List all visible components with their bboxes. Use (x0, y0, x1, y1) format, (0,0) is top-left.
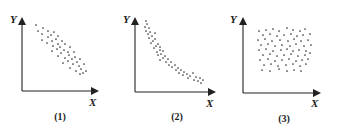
data-point (60, 52, 62, 54)
data-point (151, 35, 153, 37)
data-point (147, 33, 149, 35)
data-point (175, 69, 177, 71)
data-point (148, 27, 150, 29)
data-point (79, 73, 81, 75)
data-point (302, 34, 304, 36)
data-point (264, 38, 266, 40)
data-point (61, 40, 63, 42)
data-point (150, 42, 152, 44)
data-point (83, 63, 85, 65)
data-point (272, 28, 274, 30)
data-point (279, 39, 281, 41)
data-point (180, 69, 182, 71)
data-point (71, 58, 73, 60)
data-point (258, 30, 260, 32)
data-point (85, 70, 87, 72)
data-point (59, 46, 61, 48)
data-point (195, 76, 197, 78)
y-axis-label-1: Y (10, 14, 17, 25)
data-point (192, 72, 194, 74)
data-point (258, 49, 260, 51)
data-point (304, 28, 306, 30)
data-point (299, 65, 301, 67)
data-point (171, 66, 173, 68)
data-point (197, 80, 199, 82)
data-point (262, 54, 264, 56)
data-point (72, 63, 74, 65)
data-point (297, 55, 299, 57)
data-point (303, 45, 305, 47)
data-point (41, 39, 43, 41)
data-point (164, 55, 166, 57)
data-point (82, 72, 84, 74)
data-point (277, 65, 279, 67)
data-point (183, 71, 185, 73)
data-point (285, 64, 287, 66)
data-point (262, 34, 264, 36)
x-axis-label-2: X (206, 98, 213, 109)
caption-3: (3) (278, 114, 290, 124)
data-point (289, 45, 291, 47)
data-point (286, 48, 288, 50)
data-point (193, 79, 195, 81)
data-point (146, 23, 148, 25)
data-point (47, 30, 49, 32)
data-point (78, 65, 80, 67)
data-point (257, 39, 259, 41)
data-point (265, 48, 267, 50)
data-point (64, 43, 66, 45)
data-point (67, 51, 69, 53)
data-point (186, 73, 188, 75)
data-point (286, 70, 288, 72)
data-point (157, 43, 159, 45)
data-point (189, 75, 191, 77)
data-point (267, 43, 269, 45)
data-point (144, 26, 146, 28)
data-point (79, 58, 81, 60)
data-point (263, 64, 265, 66)
data-point (292, 29, 294, 31)
data-point (283, 54, 285, 56)
data-point (200, 82, 202, 84)
data-point (64, 57, 66, 59)
data-point (57, 55, 59, 57)
data-point (260, 44, 262, 46)
caption-2: (2) (171, 112, 183, 122)
data-point (300, 70, 302, 72)
data-point (73, 51, 75, 53)
data-point (53, 31, 55, 33)
data-point (269, 33, 271, 35)
data-point (292, 63, 294, 65)
data-point (307, 58, 309, 60)
data-point (148, 37, 150, 39)
data-point (199, 77, 201, 79)
data-point (167, 58, 169, 60)
data-point (35, 24, 37, 26)
data-point (305, 50, 307, 52)
data-point (74, 56, 76, 58)
scatter-plot-2 (135, 19, 214, 92)
data-point (286, 27, 288, 29)
data-point (162, 50, 164, 52)
data-point (288, 58, 290, 60)
data-point (159, 49, 161, 51)
data-point (269, 53, 271, 55)
scatter-plot-3 (243, 19, 319, 93)
data-point (159, 59, 161, 61)
data-point (75, 70, 77, 72)
data-point (295, 60, 297, 62)
data-point (145, 20, 147, 22)
data-point (68, 54, 70, 56)
data-point (63, 49, 65, 51)
x-axis-label-1: X (89, 97, 96, 108)
data-point (80, 68, 82, 70)
data-point (293, 38, 295, 40)
data-point (69, 46, 71, 48)
scatter-plot-1 (22, 19, 97, 91)
data-point (154, 32, 156, 34)
data-point (37, 30, 39, 32)
data-point (155, 45, 157, 47)
data-point (271, 40, 273, 42)
data-point (159, 46, 161, 48)
data-point (269, 70, 271, 72)
